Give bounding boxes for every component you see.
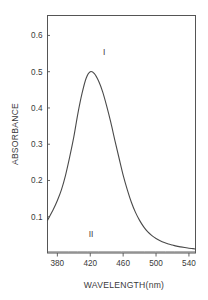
x-tick-label-420: 420 (83, 259, 97, 268)
y-tick-label-0.1: 0.1 (31, 213, 43, 222)
y-tick-label-0.6: 0.6 (31, 31, 43, 40)
x-tick-label-540: 540 (182, 259, 196, 268)
y-tick-label-0.3: 0.3 (31, 140, 43, 149)
y-axis-title: ABSORBANCE (10, 103, 20, 165)
series-label-I: I (103, 47, 105, 57)
absorbance-spectrum-figure: 380420460500540 0.10.20.30.40.50.6 III W… (0, 0, 208, 300)
y-tick-label-0.2: 0.2 (31, 176, 43, 185)
plot-frame (48, 16, 196, 254)
x-tick-labels: 380420460500540 (51, 259, 197, 268)
x-tick-label-380: 380 (51, 259, 65, 268)
y-tick-labels: 0.10.20.30.40.50.6 (31, 31, 43, 221)
chart-canvas: 380420460500540 0.10.20.30.40.50.6 III W… (0, 0, 208, 300)
series-label-II: II (89, 229, 94, 239)
x-tick-label-460: 460 (116, 259, 130, 268)
y-tick-label-0.4: 0.4 (31, 104, 43, 113)
x-axis-title: WAVELENGTH(nm) (84, 280, 164, 290)
x-axis-ticks (57, 253, 189, 257)
x-tick-label-500: 500 (149, 259, 163, 268)
y-tick-label-0.5: 0.5 (31, 68, 43, 77)
